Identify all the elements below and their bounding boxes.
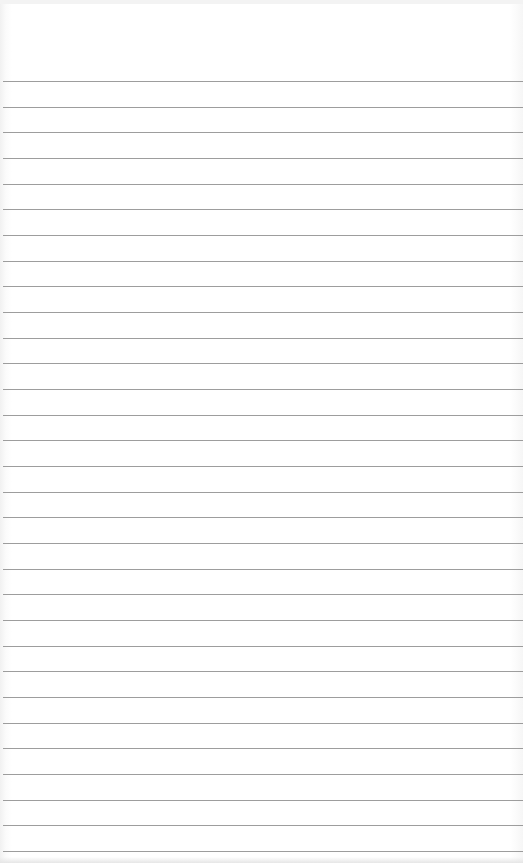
ruled-line [3, 184, 523, 185]
ruled-line [3, 646, 523, 647]
ruled-line [3, 466, 523, 467]
ruled-line [3, 851, 523, 852]
ruled-line [3, 723, 523, 724]
ruled-line [3, 286, 523, 287]
ruled-line [3, 235, 523, 236]
ruled-line [3, 569, 523, 570]
ruled-line [3, 543, 523, 544]
ruled-paper [0, 0, 523, 863]
ruled-line [3, 389, 523, 390]
ruled-line [3, 517, 523, 518]
ruled-line [3, 825, 523, 826]
ruled-line [3, 748, 523, 749]
ruled-line [3, 492, 523, 493]
ruled-line [3, 261, 523, 262]
ruled-line [3, 774, 523, 775]
ruled-line [3, 620, 523, 621]
paper-bottom-edge [0, 857, 523, 863]
paper-top-edge [0, 0, 523, 4]
ruled-line [3, 363, 523, 364]
ruled-line [3, 800, 523, 801]
ruled-line [3, 671, 523, 672]
ruled-line [3, 158, 523, 159]
ruled-line [3, 440, 523, 441]
ruled-line [3, 338, 523, 339]
ruled-line [3, 209, 523, 210]
ruled-line [3, 81, 523, 82]
ruled-line [3, 697, 523, 698]
ruled-line [3, 107, 523, 108]
ruled-line [3, 132, 523, 133]
ruled-line [3, 594, 523, 595]
ruled-line [3, 415, 523, 416]
ruled-line [3, 312, 523, 313]
